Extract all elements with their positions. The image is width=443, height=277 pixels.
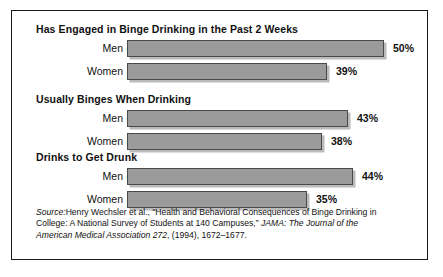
bar-value-2-women: 38% (331, 133, 352, 150)
chart-panel: Has Engaged in Binge Drinking in the Pas… (11, 10, 428, 260)
bar-1-men (127, 40, 384, 57)
bar-label-2-men: Men (12, 110, 123, 127)
bar-label-3-women: Women (12, 191, 123, 208)
group-title-3: Drinks to Get Drunk (36, 151, 137, 163)
bar-value-2-men: 43% (357, 110, 378, 127)
bar-value-1-men: 50% (393, 40, 414, 57)
source-label: Source: (36, 207, 66, 217)
bar-value-1-women: 39% (336, 63, 357, 80)
bar-label-3-men: Men (12, 168, 123, 185)
source-text-2: , (1994), 1672–1677. (167, 230, 247, 240)
bar-2-men (127, 110, 348, 127)
source-note: Source:Henry Wechsler et al., “Health an… (36, 207, 396, 241)
bar-2-women (127, 133, 322, 150)
bar-3-women (127, 191, 307, 208)
bar-label-1-men: Men (12, 40, 123, 57)
bar-value-3-men: 44% (362, 168, 383, 185)
bar-3-men (127, 168, 353, 185)
group-title-1: Has Engaged in Binge Drinking in the Pas… (36, 23, 298, 35)
bar-1-women (127, 63, 327, 80)
bar-value-3-women: 35% (316, 191, 337, 208)
bar-label-2-women: Women (12, 133, 123, 150)
group-title-2: Usually Binges When Drinking (36, 93, 191, 105)
bar-label-1-women: Women (12, 63, 123, 80)
